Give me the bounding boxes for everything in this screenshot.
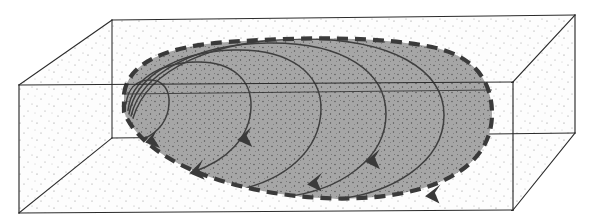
diagram-canvas (0, 0, 591, 222)
figure-root: Phase-space box with shaded invariant re… (0, 0, 591, 222)
